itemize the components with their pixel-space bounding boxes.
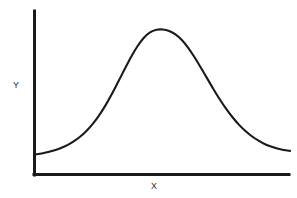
bell-curve-path xyxy=(36,29,291,154)
y-axis-label: Y xyxy=(13,81,19,90)
x-axis-label: X xyxy=(151,182,157,191)
data-series-group xyxy=(36,29,291,154)
axes-group xyxy=(34,11,289,175)
bell-curve-plot xyxy=(0,0,297,198)
chart-screenshot: Y X xyxy=(0,0,297,198)
